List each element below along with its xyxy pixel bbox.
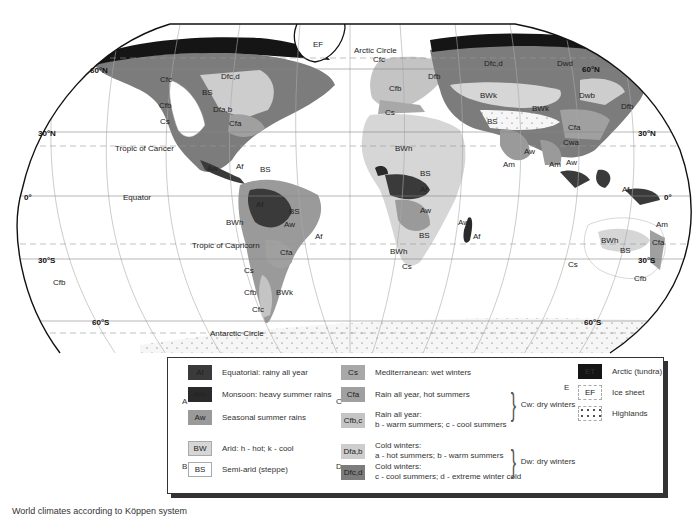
svg-text:Dwd: Dwd (557, 59, 573, 68)
lat-label-60s-right: 60°S (584, 318, 602, 327)
brace-cw: }Cw: dry winters (508, 388, 575, 420)
svg-text:BWk: BWk (532, 104, 550, 113)
swatch-bs: BS (188, 462, 212, 477)
svg-text:BS: BS (420, 169, 431, 178)
svg-text:Af: Af (256, 200, 264, 209)
group-label-a: A (182, 397, 187, 406)
lat-label-30n-right: 30°N (638, 129, 656, 138)
svg-text:Cs: Cs (244, 266, 254, 275)
svg-text:Am: Am (656, 220, 668, 229)
svg-text:Cfb: Cfb (53, 278, 66, 287)
swatch-af: Af (188, 365, 212, 380)
lat-label-60n-right: 60°N (582, 65, 600, 74)
swatch-dfab: Dfa,b (341, 444, 365, 459)
svg-text:Aw: Aw (458, 218, 469, 227)
svg-text:Dfc,d: Dfc,d (221, 72, 240, 81)
group-label-b: B (182, 462, 187, 471)
svg-text:Cs: Cs (160, 117, 170, 126)
legend-item-af: Af Equatorial: rainy all year (188, 365, 308, 380)
lat-label-60s-left: 60°S (92, 318, 110, 327)
legend-item-bs: BS Semi-arid (steppe) (188, 462, 288, 477)
svg-text:Aw: Aw (420, 206, 431, 215)
swatch-bw: BW (188, 441, 212, 456)
svg-text:Cfb: Cfb (159, 101, 172, 110)
lat-label-equator-left: 0° (24, 193, 32, 202)
svg-text:Aw: Aw (524, 147, 535, 156)
lat-label-30s-right: 30°S (638, 256, 656, 265)
svg-text:BS: BS (289, 207, 300, 216)
svg-text:BS: BS (487, 117, 498, 126)
svg-text:BS: BS (202, 88, 213, 97)
figure-caption: World climates according to Köppen syste… (12, 506, 187, 516)
svg-text:Aw: Aw (284, 220, 295, 229)
legend-item-dfcd: Dfc,d Cold winters:c - cool summers; d -… (341, 462, 521, 482)
svg-text:EF: EF (313, 40, 323, 49)
svg-text:BWk: BWk (276, 288, 294, 297)
brace-dw: }Dw: dry winters (508, 445, 575, 477)
svg-text:Aw: Aw (207, 164, 218, 173)
svg-text:Af: Af (473, 232, 481, 241)
svg-text:Cs: Cs (385, 108, 395, 117)
swatch-cs: Cs (341, 365, 365, 380)
svg-text:Cfc: Cfc (252, 305, 264, 314)
svg-text:Cfa: Cfa (568, 123, 581, 132)
svg-text:BWk: BWk (480, 91, 498, 100)
svg-text:BS: BS (620, 246, 631, 255)
lat-label-30n-left: 30°N (38, 129, 56, 138)
svg-text:Am: Am (549, 160, 561, 169)
legend-item-cfa: Cfa Rain all year, hot summers (341, 387, 470, 402)
swatch-ef: EF (578, 385, 602, 400)
lat-label-equator-right: 0° (664, 193, 672, 202)
swatch-am: Am (188, 387, 212, 402)
legend-item-ef: EF Ice sheet (578, 385, 644, 400)
legend-item-bw: BW Arid: h - hot; k - cool (188, 441, 294, 456)
svg-text:Cfb: Cfb (389, 84, 402, 93)
svg-text:Cfc: Cfc (373, 55, 385, 64)
svg-text:BWh: BWh (390, 247, 407, 256)
svg-text:Af: Af (622, 185, 630, 194)
swatch-et: ET (578, 364, 602, 379)
lat-label-60n: 60°N (90, 66, 108, 75)
svg-text:Af: Af (236, 162, 244, 171)
svg-text:Af: Af (420, 185, 428, 194)
svg-text:BWh: BWh (395, 144, 412, 153)
svg-text:Cwa: Cwa (563, 138, 580, 147)
svg-text:Dfb: Dfb (428, 72, 441, 81)
legend-item-cs: Cs Mediterranean: wet winters (341, 365, 471, 380)
legend-item-am: Am Monsoon: heavy summer rains (188, 387, 331, 402)
svg-text:Dfc,d: Dfc,d (484, 59, 503, 68)
legend-item-aw: Aw Seasonal summer rains (188, 410, 306, 425)
svg-text:Cfc: Cfc (160, 75, 172, 84)
swatch-highlands (578, 406, 602, 421)
legend-item-dfab: Dfa,b Cold winters:a - hot summers; b - … (341, 441, 503, 461)
svg-text:BWh: BWh (226, 218, 243, 227)
svg-text:Dfb: Dfb (621, 102, 634, 111)
svg-text:BWh: BWh (601, 236, 618, 245)
tropic-capricorn-label: Tropic of Capricorn (192, 241, 260, 250)
svg-text:Cfb: Cfb (244, 288, 257, 297)
svg-text:Cfa: Cfa (229, 119, 242, 128)
arctic-circle-label: Arctic Circle (354, 46, 397, 55)
svg-text:Dwb: Dwb (579, 91, 596, 100)
antarctic-circle-label: Antarctic Circle (210, 329, 264, 338)
svg-text:Cs: Cs (402, 262, 412, 271)
legend-item-highlands: Highlands (578, 406, 648, 421)
legend-item-cfbc: Cfb,c Rain all year:b - warm summers; c … (341, 410, 507, 430)
svg-text:Cfa: Cfa (280, 248, 293, 257)
svg-text:BS: BS (260, 165, 271, 174)
svg-text:Aw: Aw (566, 158, 577, 167)
climate-legend: A B C D E Af Equatorial: rainy all year … (167, 357, 664, 494)
lat-label-30s-left: 30°S (38, 256, 56, 265)
tropic-cancer-label: Tropic of Cancer (115, 144, 174, 153)
swatch-cfbc: Cfb,c (341, 413, 365, 428)
swatch-dfcd: Dfc,d (341, 465, 365, 480)
swatch-cfa: Cfa (341, 387, 365, 402)
svg-text:BS: BS (419, 231, 430, 240)
svg-text:Am: Am (503, 160, 515, 169)
svg-text:Cfa: Cfa (652, 238, 665, 247)
svg-text:Cfb: Cfb (634, 274, 647, 283)
legend-item-et: ET Arctic (tundra) (578, 364, 662, 379)
svg-text:Dfa,b: Dfa,b (213, 105, 233, 114)
svg-text:Cs: Cs (568, 260, 578, 269)
equator-label: Equator (123, 193, 151, 202)
